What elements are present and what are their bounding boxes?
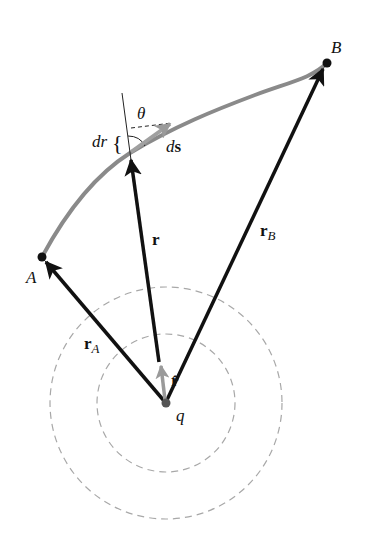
r-vector-arrow — [131, 160, 159, 362]
ra-vector-label: rA — [84, 334, 100, 356]
point-b-label: B — [331, 38, 342, 57]
dr-brace: { — [112, 130, 123, 155]
point-a-label: A — [25, 268, 37, 287]
ds-label: ds — [166, 137, 182, 156]
theta-label: θ — [137, 104, 145, 123]
rb-vector-label: rB — [260, 221, 276, 243]
r-hat-label: r̂ — [171, 371, 179, 390]
charge-q-dot — [162, 399, 171, 408]
charge-q-label: q — [176, 406, 185, 425]
r-hat-unit-vector-arrow — [161, 366, 165, 400]
point-b-dot — [323, 59, 332, 68]
electric-potential-path-diagram: A B q rA r rB r̂ ds θ dr { — [0, 0, 365, 544]
r-vector-label: r — [152, 230, 160, 249]
dr-label: dr — [92, 132, 108, 151]
path-curve-a-to-b — [42, 63, 327, 257]
point-a-dot — [38, 253, 47, 262]
radial-reference-line — [122, 93, 131, 160]
rb-vector-arrow — [166, 69, 323, 402]
